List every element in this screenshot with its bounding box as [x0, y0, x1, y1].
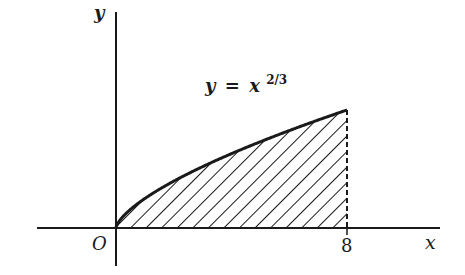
equation-equals: =: [225, 75, 240, 96]
x-axis-label: x: [425, 231, 436, 253]
x-tick-label-8: 8: [341, 235, 352, 256]
equation-base: x: [248, 75, 260, 96]
y-axis-label: y: [93, 2, 106, 23]
equation-lhs: y: [204, 75, 217, 96]
area-diagram: y x O 8 y = x 2/3: [0, 0, 465, 275]
origin-label: O: [92, 233, 107, 254]
equation-label: y = x 2/3: [204, 73, 287, 96]
equation-exponent: 2/3: [266, 73, 287, 87]
shaded-region: [116, 110, 347, 228]
